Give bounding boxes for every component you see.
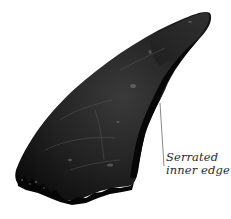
- annotation-label: Serrated inner edge: [166, 151, 230, 177]
- tooth-fossil-icon: [0, 0, 231, 219]
- annotation-line-2: inner edge: [166, 164, 230, 177]
- annotation-leader-line: [160, 103, 164, 166]
- tooth-figure: Serrated inner edge: [0, 0, 231, 219]
